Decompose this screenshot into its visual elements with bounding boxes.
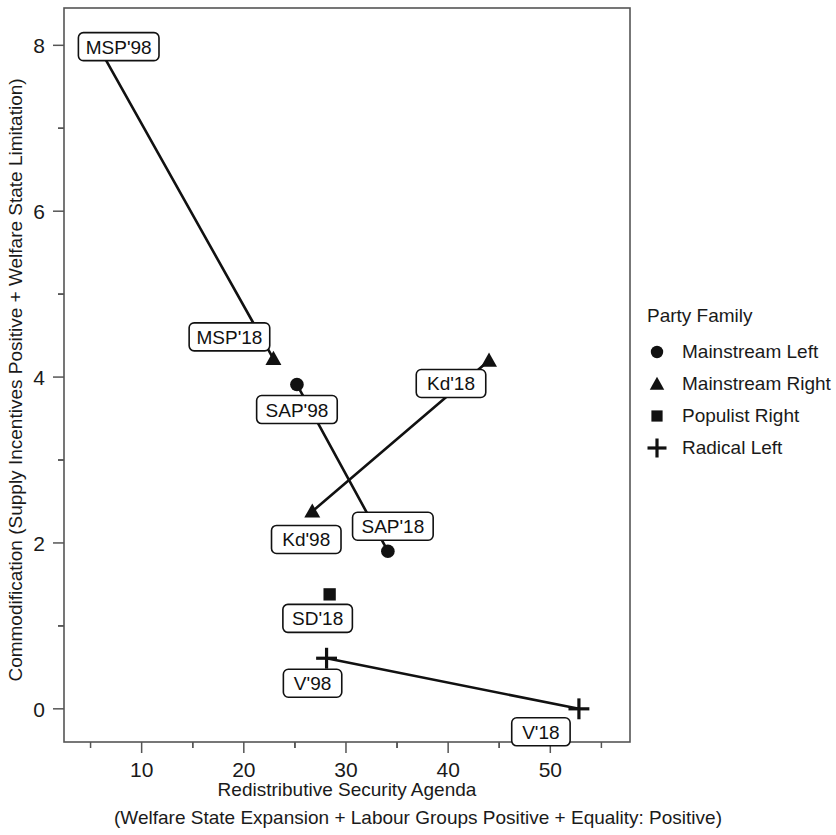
point-label-box: SAP'18 [353,512,434,540]
point-label-box: Kd'18 [416,369,486,397]
scatter-chart-figure: 1020304050 02468 MSP'98MSP'18SAP'98Kd'18… [0,0,836,835]
x-axis-title: Redistributive Security Agenda [218,779,477,800]
x-tick-label: 30 [334,758,357,781]
legend-entry-label: Mainstream Right [682,373,832,394]
point-label-text: MSP'98 [86,37,152,58]
x-tick-label: 40 [436,758,459,781]
x-axis-subtitle: (Welfare State Expansion + Labour Groups… [114,807,722,828]
x-tick-label: 10 [130,758,153,781]
y-tick-label: 4 [33,366,45,389]
point-label-text: SAP'18 [361,516,424,537]
point-label-text: SD'18 [292,608,343,629]
y-tick-label: 2 [33,532,45,555]
y-tick-label: 0 [33,698,45,721]
marker-sd18 [323,588,335,600]
y-tick-label: 8 [33,34,45,57]
point-label-text: Kd'98 [282,529,330,550]
legend-title: Party Family [647,305,753,326]
point-label-box: MSP'18 [189,323,270,351]
point-label-box: V'18 [512,718,570,746]
point-label-box: SD'18 [283,604,353,632]
x-tick-label: 50 [539,758,562,781]
point-label-box: V'98 [283,669,341,697]
point-label-text: V'98 [294,673,331,694]
point-label-box: MSP'98 [78,33,159,61]
y-axis-title: Commodification (Supply Incentives Posit… [5,78,26,681]
point-label-text: Kd'18 [427,373,475,394]
point-label-box: Kd'98 [272,525,342,553]
y-tick-label: 6 [33,200,45,223]
legend-marker-circle [651,346,663,358]
legend-marker-square [651,410,662,421]
point-label-text: SAP'98 [266,400,329,421]
chart-canvas: 1020304050 02468 MSP'98MSP'18SAP'98Kd'18… [0,0,836,835]
marker-sap98 [290,378,304,392]
x-tick-label: 20 [232,758,255,781]
point-label-text: MSP'18 [196,327,262,348]
legend-entry-label: Populist Right [682,405,800,426]
marker-sap18 [381,544,395,558]
legend-entry-label: Mainstream Left [682,341,819,362]
point-label-text: V'18 [522,722,559,743]
point-label-box: SAP'98 [257,396,338,424]
legend-entry-label: Radical Left [682,437,783,458]
